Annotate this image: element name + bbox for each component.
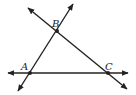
line-AB [18, 4, 73, 91]
label-b: B [51, 18, 59, 29]
point-a [28, 71, 32, 75]
label-a: A [20, 61, 28, 72]
line-BC [28, 8, 127, 89]
geometry-diagram: ABC [0, 0, 136, 95]
point-b [55, 29, 59, 33]
lines-layer [8, 4, 128, 91]
label-c: C [105, 61, 113, 72]
